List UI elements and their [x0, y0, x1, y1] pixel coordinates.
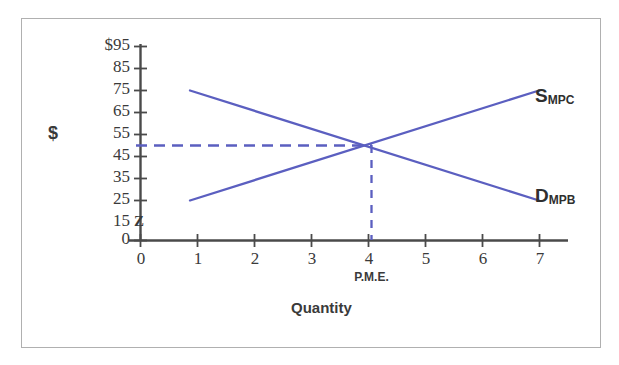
x-tick-label: 5 — [411, 249, 441, 269]
y-tick-label: 75 — [70, 79, 130, 99]
supply-curve-label-subscript: MPC — [548, 93, 575, 107]
equilibrium-label: P.M.E. — [339, 270, 404, 284]
y-tick-label: $95 — [70, 35, 130, 55]
x-axis-title: Quantity — [291, 299, 352, 316]
y-tick-label: 45 — [70, 145, 130, 165]
supply-curve-label: SMPC — [535, 85, 574, 107]
demand-curve-label: DMPB — [535, 185, 575, 207]
y-tick-label: 35 — [70, 167, 130, 187]
x-tick-label: 0 — [126, 249, 156, 269]
x-tick-label: 7 — [525, 249, 555, 269]
x-tick-label: 4 — [354, 249, 384, 269]
x-tick-label: 1 — [183, 249, 213, 269]
y-tick-label: 25 — [70, 189, 130, 209]
x-tick-label: 2 — [240, 249, 270, 269]
y-tick-label: 15 — [70, 211, 130, 231]
y-tick-label: 85 — [70, 57, 130, 77]
y-tick-label: 0 — [70, 229, 130, 249]
supply-curve-label-base: S — [535, 85, 548, 106]
y-axis-title: $ — [48, 123, 58, 144]
chart-figure: $95 85 75 65 55 45 35 25 15 0 Z 0 1 2 3 … — [0, 0, 619, 365]
demand-curve-label-subscript: MPB — [549, 193, 576, 207]
x-tick-label: 3 — [297, 249, 327, 269]
y-axis-break-icon: Z — [134, 213, 144, 230]
y-tick-label: 55 — [70, 123, 130, 143]
x-tick-label: 6 — [468, 249, 498, 269]
y-tick-label: 65 — [70, 101, 130, 121]
demand-curve-label-base: D — [535, 185, 549, 206]
